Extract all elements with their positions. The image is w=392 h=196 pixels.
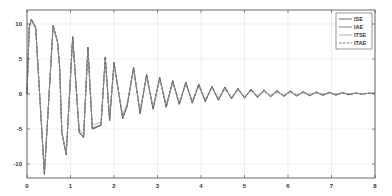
legend-label-iae: IAE bbox=[354, 24, 364, 30]
line-chart: 012345678 -10-50510 ISEIAEITSEITAE bbox=[0, 0, 392, 196]
chart-background bbox=[0, 0, 392, 196]
y-tick-label: 10 bbox=[15, 21, 22, 27]
legend-label-ise: ISE bbox=[354, 16, 363, 22]
legend-label-itae: ITAE bbox=[354, 40, 366, 46]
y-tick-label: -10 bbox=[13, 161, 22, 167]
legend-label-itse: ITSE bbox=[354, 32, 367, 38]
y-tick-label: -5 bbox=[17, 126, 23, 132]
legend[interactable]: ISEIAEITSEITAE bbox=[336, 13, 372, 49]
